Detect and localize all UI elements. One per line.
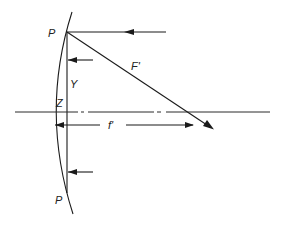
arrow-down-right-icon — [203, 120, 214, 130]
reflected-ray — [67, 32, 214, 130]
incident-ray — [67, 29, 166, 35]
label-f-prime-upper: F' — [131, 60, 141, 72]
arrow-left-icon — [68, 57, 77, 63]
label-p-bottom: P — [55, 194, 63, 206]
mirror-curve — [56, 12, 73, 214]
focal-length-dimension — [55, 122, 194, 128]
label-y: Y — [70, 78, 78, 90]
arrow-left-icon — [68, 169, 77, 175]
lower-small-arrow — [68, 169, 93, 175]
label-f-prime-lower: f' — [108, 119, 114, 131]
label-p-top: P — [48, 27, 56, 39]
arrow-right-icon — [185, 122, 194, 128]
upper-small-arrow — [68, 57, 93, 63]
label-z: Z — [55, 97, 64, 109]
mirror-diagram: P F' Y Z f' P — [0, 0, 283, 227]
arrow-left-icon — [124, 29, 134, 35]
